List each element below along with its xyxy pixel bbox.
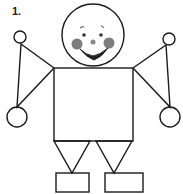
nose: [91, 40, 96, 45]
left-upper-hand-circle: [14, 31, 26, 43]
left-lower-hand-circle: [7, 107, 27, 127]
right-upper-hand-circle: [163, 33, 175, 45]
right-lower-hand-circle: [160, 107, 180, 127]
left-arm-triangle: [17, 44, 54, 107]
left-eyebrow: [80, 27, 84, 28]
left-leg-triangle: [54, 141, 90, 173]
left-eye: [82, 33, 86, 37]
right-foot-rect: [105, 173, 143, 192]
right-cheek: [104, 38, 115, 49]
right-leg-triangle: [96, 141, 132, 173]
right-arm-triangle: [133, 45, 170, 107]
mouth: [80, 48, 108, 60]
body-square: [54, 68, 133, 141]
right-eye: [99, 33, 103, 37]
left-foot-rect: [56, 173, 89, 192]
figure-drawing: [0, 0, 183, 194]
right-eyebrow: [101, 26, 104, 28]
face: [72, 26, 115, 60]
left-cheek: [72, 39, 83, 50]
